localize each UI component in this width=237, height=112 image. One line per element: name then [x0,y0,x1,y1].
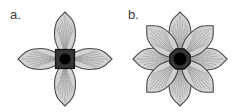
flower-center-disc [60,54,71,65]
figure-root: a. b. [0,0,237,112]
figure-panel-b: b. [118,0,236,112]
figure-panel-a: a. [0,0,118,112]
flower-diagram-b [118,0,236,112]
flower-center-disc [174,53,187,66]
flower-diagram-a [0,0,118,112]
